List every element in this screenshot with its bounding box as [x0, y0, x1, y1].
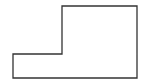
- diagram-canvas: [0, 0, 144, 82]
- l-shaped-polygon: [13, 6, 137, 78]
